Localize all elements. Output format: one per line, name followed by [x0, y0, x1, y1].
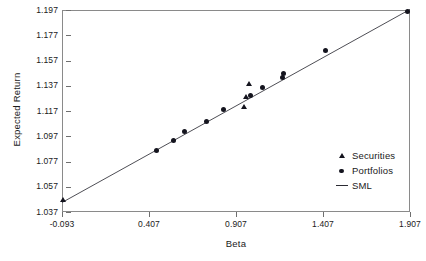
legend-label: Securities [352, 148, 395, 163]
x-tick-label: 0.907 [206, 220, 266, 229]
legend-label: Portfolios [352, 163, 393, 178]
x-tick-label: 1.407 [293, 220, 353, 229]
chart-figure: 1.1971.1771.1571.1371.1171.0971.0771.057… [0, 0, 426, 261]
legend-item-sml: SML [336, 178, 406, 193]
triangle-glyph [339, 153, 345, 158]
x-axis-title: Beta [62, 238, 410, 249]
triangle-icon [336, 148, 350, 163]
legend-item-securities: Securities [336, 148, 406, 163]
legend-label: SML [352, 178, 372, 193]
line-glyph [336, 185, 348, 186]
x-tick-mark [236, 212, 237, 217]
circle-glyph [339, 169, 344, 174]
x-tick-mark [62, 212, 63, 217]
circle-icon [336, 163, 350, 178]
x-tick-label: 1.907 [380, 220, 426, 229]
x-axis-tick-labels: -0.0930.4070.9071.4071.907 [0, 0, 426, 261]
x-tick-mark [323, 212, 324, 217]
x-tick-mark [149, 212, 150, 217]
x-tick-mark [410, 212, 411, 217]
legend-item-portfolios: Portfolios [336, 163, 406, 178]
x-tick-label: 0.407 [119, 220, 179, 229]
x-tick-label: -0.093 [32, 220, 92, 229]
y-axis-title: Expected Return [11, 50, 22, 170]
chart-legend: SecuritiesPortfoliosSML [336, 148, 406, 193]
line-icon [336, 178, 350, 193]
